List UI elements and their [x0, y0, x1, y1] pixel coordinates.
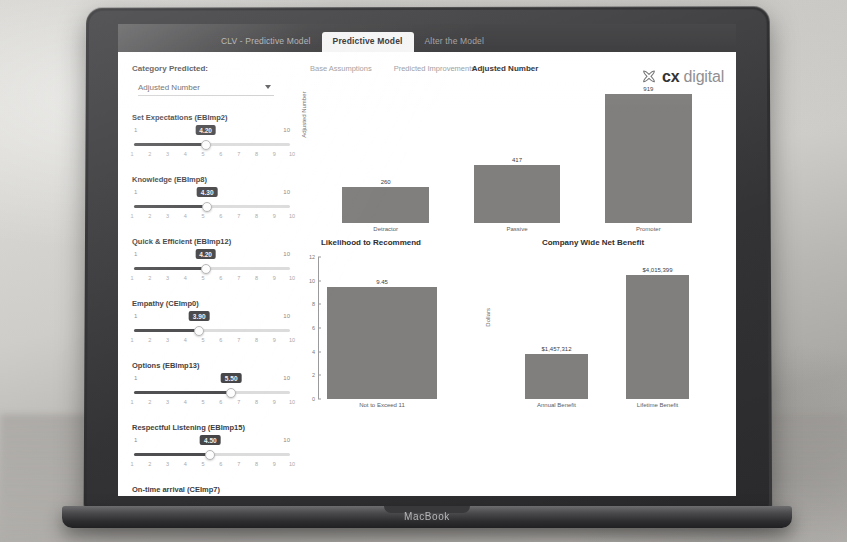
slider-scale-tick: 4 [184, 461, 187, 467]
y-axis-tick-label: 8 [312, 301, 315, 307]
tab-alter-the-model[interactable]: Alter the Model [414, 32, 495, 52]
x-axis-labels: Annual BenefitLifetime Benefit [506, 402, 708, 408]
slider-scale-tick: 9 [273, 151, 276, 157]
slider-knob[interactable] [205, 450, 215, 460]
slider-code: (EBImp8) [174, 175, 207, 184]
slider-scale-tick: 6 [219, 337, 222, 343]
y-axis-tick-label: 0 [312, 396, 315, 402]
window-title: CLV - Predictive Model [210, 32, 322, 52]
slider-value: 3.90 [189, 311, 210, 321]
slider-scale-tick: 2 [148, 275, 151, 281]
slider-scale: 12345678910 [132, 213, 292, 220]
slider-label: Quick & Efficient (EBImp12) [132, 237, 292, 246]
slider-scale-tick: 4 [184, 399, 187, 405]
bar-item: 919 [583, 83, 714, 223]
slider-scale-tick: 3 [166, 461, 169, 467]
slider-readout: 1105.50 [132, 373, 292, 385]
bar-group: 260417919 [320, 83, 714, 223]
plot-area: $1,457,312$4,015,399 [506, 257, 708, 399]
slider-value: 4.30 [197, 187, 218, 197]
bar-item: 260 [320, 83, 451, 223]
slider-scale: 12345678910 [132, 151, 292, 158]
slider-knob[interactable] [226, 388, 236, 398]
slider-knob[interactable] [201, 264, 211, 274]
slider-track-wrap[interactable] [132, 201, 292, 212]
slider-set-expectations[interactable]: Set Expectations (EBImp2)1104.2012345678… [132, 113, 292, 158]
category-predicted-select[interactable]: Adjusted Number [138, 80, 274, 96]
slider-scale-tick: 10 [289, 275, 295, 281]
slider-scale-tick: 9 [273, 275, 276, 281]
slider-track-wrap[interactable] [132, 449, 292, 460]
slider-max: 10 [283, 251, 290, 257]
tab-predictive-model[interactable]: Predictive Model [322, 32, 414, 52]
slider-code: (EBImp13) [162, 361, 199, 370]
slider-value: 4.20 [195, 125, 216, 135]
slider-options[interactable]: Options (EBImp13)1105.5012345678910 [132, 361, 292, 406]
slider-readout: 1104.20 [132, 125, 292, 137]
slider-on-time-arrival[interactable]: On-time arrival (CEImp7)1104.40123456789… [132, 485, 292, 496]
chart-adjusted-number: Adjusted Number Adjusted Number 26041791… [296, 64, 714, 232]
y-axis-tick-label: 2 [312, 372, 315, 378]
slider-quick-efficient[interactable]: Quick & Efficient (EBImp12)1104.20123456… [132, 237, 292, 282]
slider-label: Respectful Listening (EBImp15) [132, 423, 292, 432]
slider-scale-tick: 2 [148, 399, 151, 405]
slider-respectful-listening[interactable]: Respectful Listening (EBImp15)1104.50123… [132, 423, 292, 468]
slider-readout: 1104.20 [132, 249, 292, 261]
slider-empathy[interactable]: Empathy (CEImp0)1103.9012345678910 [132, 299, 292, 344]
slider-scale-tick: 4 [184, 337, 187, 343]
slider-scale-tick: 6 [219, 461, 222, 467]
slider-track-wrap[interactable] [132, 387, 292, 398]
slider-scale-tick: 7 [237, 213, 240, 219]
slider-scale-tick: 8 [255, 213, 258, 219]
slider-scale-tick: 8 [255, 275, 258, 281]
bar [605, 94, 692, 223]
macbook-device: CLV - Predictive Model Predictive Model … [84, 6, 770, 518]
slider-track-fill [134, 329, 199, 332]
slider-scale-tick: 10 [289, 151, 295, 157]
plot-area: 121086420 9.45 [318, 257, 446, 399]
slider-label: Set Expectations (EBImp2) [132, 113, 292, 122]
app-content: cx digital Base Assumptions Predicted Im… [118, 52, 736, 496]
slider-scale-tick: 7 [237, 461, 240, 467]
chart-title: Adjusted Number [296, 64, 714, 73]
chart-y-axis-label: Dollars [485, 307, 491, 326]
slider-track-wrap[interactable] [132, 325, 292, 336]
slider-scale-tick: 7 [237, 275, 240, 281]
slider-scale-tick: 2 [148, 151, 151, 157]
slider-knowledge[interactable]: Knowledge (EBImp8)1104.3012345678910 [132, 175, 292, 220]
slider-track-fill [134, 205, 207, 208]
slider-knob[interactable] [194, 326, 204, 336]
x-axis-label: Promoter [583, 226, 714, 232]
plot-area: 260417919 [320, 83, 714, 223]
slider-track-wrap[interactable] [132, 263, 292, 274]
category-predicted-value: Adjusted Number [138, 83, 200, 92]
slider-scale-tick: 7 [237, 399, 240, 405]
controls-sidebar: Category Predicted: Adjusted Number Set … [132, 64, 292, 496]
slider-scale-tick: 9 [273, 337, 276, 343]
bar-group: 9.45 [318, 257, 446, 399]
chart-y-axis-label: Adjusted Number [301, 91, 307, 137]
macbook-brand-label: MacBook [404, 511, 450, 522]
slider-value: 5.50 [221, 373, 242, 383]
slider-knob[interactable] [201, 140, 211, 150]
slider-max: 10 [283, 127, 290, 133]
slider-min: 1 [134, 189, 137, 195]
slider-scale-tick: 10 [289, 213, 295, 219]
y-axis-tick-label: 6 [312, 325, 315, 331]
slider-scale: 12345678910 [132, 337, 292, 344]
slider-scale-tick: 10 [289, 461, 295, 467]
slider-scale-tick: 6 [219, 399, 222, 405]
slider-scale: 12345678910 [132, 399, 292, 406]
bar-item: 417 [451, 83, 582, 223]
slider-knob[interactable] [202, 202, 212, 212]
slider-track-fill [134, 391, 231, 394]
bar-value-label: 417 [512, 157, 522, 163]
slider-track-fill [134, 267, 206, 270]
slider-code: (CEImp0) [166, 299, 199, 308]
slider-scale-tick: 5 [202, 275, 205, 281]
slider-scale-tick: 6 [219, 151, 222, 157]
slider-scale-tick: 8 [255, 399, 258, 405]
bar-value-label: 260 [381, 179, 391, 185]
slider-scale-tick: 5 [202, 337, 205, 343]
slider-track-wrap[interactable] [132, 139, 292, 150]
